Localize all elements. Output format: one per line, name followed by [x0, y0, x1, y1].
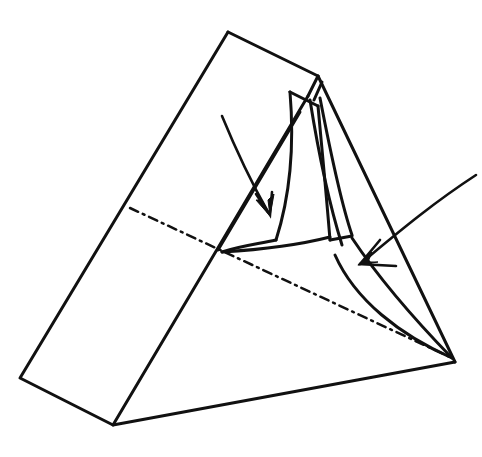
- arrow-from-right: [358, 175, 476, 266]
- top-edge: [228, 32, 318, 76]
- arrow-shaft: [360, 175, 476, 264]
- arrow-shaft: [222, 116, 268, 212]
- flap-left-edge: [276, 92, 292, 240]
- squash-lower-curve: [335, 255, 452, 358]
- diagram-svg: [0, 0, 482, 457]
- valley-crease-line: [130, 208, 452, 358]
- origami-diagram: [0, 0, 482, 457]
- squash-cross: [330, 236, 352, 240]
- model-outline: [20, 32, 455, 425]
